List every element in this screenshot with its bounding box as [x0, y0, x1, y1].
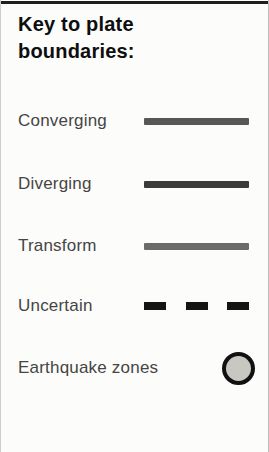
dash-segment	[144, 302, 166, 310]
top-border-line	[1, 1, 268, 4]
legend-panel: Key to plate boundaries: Converging Dive…	[0, 0, 269, 452]
converging-line-symbol	[144, 118, 249, 125]
converging-label: Converging	[18, 111, 107, 131]
legend-row-transform: Transform	[18, 229, 249, 263]
earthquake-zones-label: Earthquake zones	[18, 358, 158, 378]
transform-line-symbol	[144, 243, 249, 250]
legend-row-diverging: Diverging	[18, 167, 249, 201]
diverging-label: Diverging	[18, 174, 92, 194]
legend-row-earthquake-zones: Earthquake zones	[18, 351, 249, 385]
dash-segment	[186, 302, 208, 310]
uncertain-label: Uncertain	[18, 296, 93, 316]
uncertain-dashed-line-symbol	[144, 302, 249, 310]
legend-row-uncertain: Uncertain	[18, 289, 249, 323]
legend-row-converging: Converging	[18, 104, 249, 138]
dash-segment	[227, 302, 249, 310]
diverging-line-symbol	[144, 181, 249, 188]
transform-label: Transform	[18, 236, 97, 256]
legend-title: Key to plate boundaries:	[18, 11, 188, 65]
earthquake-zone-circle-symbol	[222, 352, 255, 385]
